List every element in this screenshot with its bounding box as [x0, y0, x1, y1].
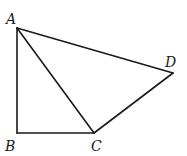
point-label-d: D [164, 54, 176, 70]
segments-group [17, 28, 173, 133]
point-label-b: B [4, 138, 15, 154]
point-label-a: A [4, 11, 16, 27]
point-label-c: C [91, 138, 102, 154]
segment-ad [17, 28, 173, 73]
geometry-diagram: A B C D [0, 0, 187, 156]
segment-cd [94, 73, 173, 133]
segment-ac [17, 28, 94, 133]
